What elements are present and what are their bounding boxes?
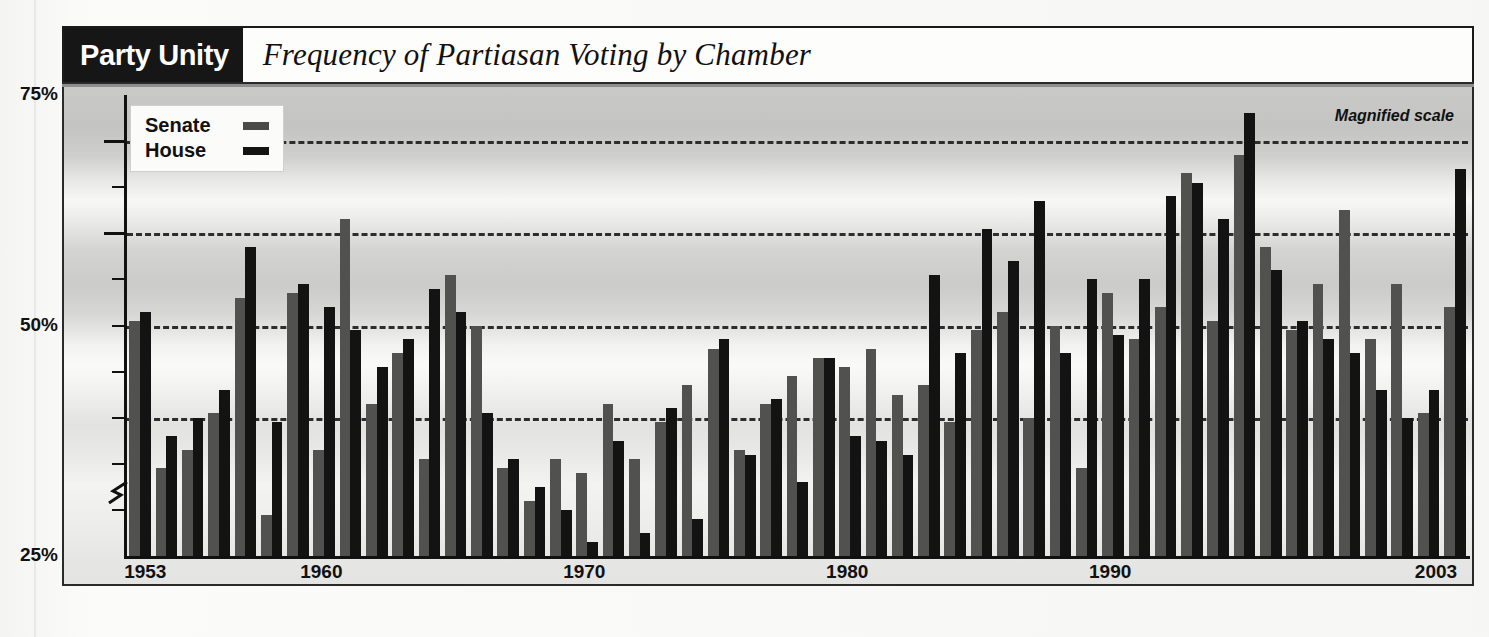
- bar-senate: [1260, 247, 1271, 556]
- bar-group: [576, 87, 598, 556]
- bar-house: [561, 510, 572, 556]
- bar-group: [760, 87, 782, 556]
- bar-group: [1050, 87, 1072, 556]
- y-axis-tick: [112, 278, 127, 280]
- bar-group: [1418, 87, 1440, 556]
- bar-senate: [655, 422, 666, 556]
- bar-house: [1218, 219, 1229, 556]
- bar-house: [850, 436, 861, 556]
- y-axis-tick: [104, 232, 127, 235]
- bar-house: [903, 455, 914, 556]
- bar-senate: [1286, 330, 1297, 556]
- bar-group: [1339, 87, 1361, 556]
- bar-group: [1391, 87, 1413, 556]
- bar-group: [392, 87, 414, 556]
- bar-house: [1297, 321, 1308, 556]
- y-axis-tick: [112, 186, 127, 188]
- bar-senate: [313, 450, 324, 556]
- bar-house: [350, 330, 361, 556]
- bar-house: [429, 289, 440, 556]
- bar-house: [482, 413, 493, 556]
- bar-senate: [1155, 307, 1166, 556]
- bar-group: [1129, 87, 1151, 556]
- bar-house: [298, 284, 309, 556]
- bar-house: [403, 339, 414, 556]
- bar-senate: [682, 385, 693, 556]
- bar-group: [1076, 87, 1098, 556]
- bar-house: [1087, 279, 1098, 556]
- bar-senate: [524, 501, 535, 556]
- bar-senate: [1391, 284, 1402, 556]
- bar-senate: [445, 275, 456, 556]
- bar-house: [1139, 279, 1150, 556]
- bar-group: [1444, 87, 1466, 556]
- bar-group: [629, 87, 651, 556]
- kicker-label: Party Unity: [64, 28, 243, 82]
- bar-group: [1207, 87, 1229, 556]
- bar-group: [839, 87, 861, 556]
- bar-group: [471, 87, 493, 556]
- plot-area: Senate House Magnified scale 19531960197…: [62, 87, 1474, 586]
- bar-senate: [208, 413, 219, 556]
- bar-house: [1034, 201, 1045, 556]
- bar-house: [140, 312, 151, 556]
- magnified-scale-annotation: Magnified scale: [1335, 107, 1454, 125]
- bar-senate: [971, 330, 982, 556]
- legend-label-senate: Senate: [145, 114, 229, 137]
- house-swatch-icon: [243, 147, 269, 155]
- bar-house: [1455, 169, 1466, 556]
- bar-group: [1102, 87, 1124, 556]
- x-axis-label: 1990: [1089, 561, 1131, 583]
- y-axis-tick: [112, 509, 127, 511]
- bar-group: [366, 87, 388, 556]
- bar-house: [377, 367, 388, 556]
- bar-group: [603, 87, 625, 556]
- bar-house: [666, 408, 677, 556]
- bar-senate: [1339, 210, 1350, 556]
- bar-house: [876, 441, 887, 556]
- bar-senate: [471, 326, 482, 557]
- bar-senate: [182, 450, 193, 556]
- bar-group: [918, 87, 940, 556]
- bar-house: [456, 312, 467, 556]
- bar-senate: [918, 385, 929, 556]
- bar-group: [313, 87, 335, 556]
- bar-group: [550, 87, 572, 556]
- bar-group: [1365, 87, 1387, 556]
- bar-senate: [839, 367, 850, 556]
- bar-house: [982, 229, 993, 556]
- bar-house: [219, 390, 230, 556]
- bar-group: [655, 87, 677, 556]
- bar-senate: [576, 473, 587, 556]
- senate-swatch-icon: [243, 122, 269, 130]
- figure-card: Party Unity Frequency of Partiasan Votin…: [62, 26, 1474, 586]
- bar-house: [745, 455, 756, 556]
- bar-house: [1113, 335, 1124, 556]
- bar-house: [1271, 270, 1282, 556]
- bar-house: [929, 275, 940, 556]
- bar-senate: [340, 219, 351, 556]
- y-axis-tick: [112, 325, 127, 327]
- bar-group: [1313, 87, 1335, 556]
- bar-house: [824, 358, 835, 556]
- x-axis-label: 1970: [563, 561, 605, 583]
- bar-group: [944, 87, 966, 556]
- legend-label-house: House: [145, 139, 229, 162]
- y-axis-tick: [112, 371, 127, 373]
- bar-house: [955, 353, 966, 556]
- bar-senate: [892, 395, 903, 556]
- bar-senate: [1050, 326, 1061, 557]
- bar-senate: [708, 349, 719, 556]
- bar-senate: [392, 353, 403, 556]
- bar-house: [1376, 390, 1387, 556]
- bar-senate: [1181, 173, 1192, 556]
- y-axis-label: 50%: [20, 314, 58, 336]
- x-axis-label: 1960: [300, 561, 342, 583]
- y-axis-labels: 75%50%25%: [0, 26, 58, 525]
- bar-senate: [629, 459, 640, 556]
- bar-house: [1323, 339, 1334, 556]
- bar-group: [524, 87, 546, 556]
- bar-house: [508, 459, 519, 556]
- bar-house: [166, 436, 177, 556]
- bar-group: [287, 87, 309, 556]
